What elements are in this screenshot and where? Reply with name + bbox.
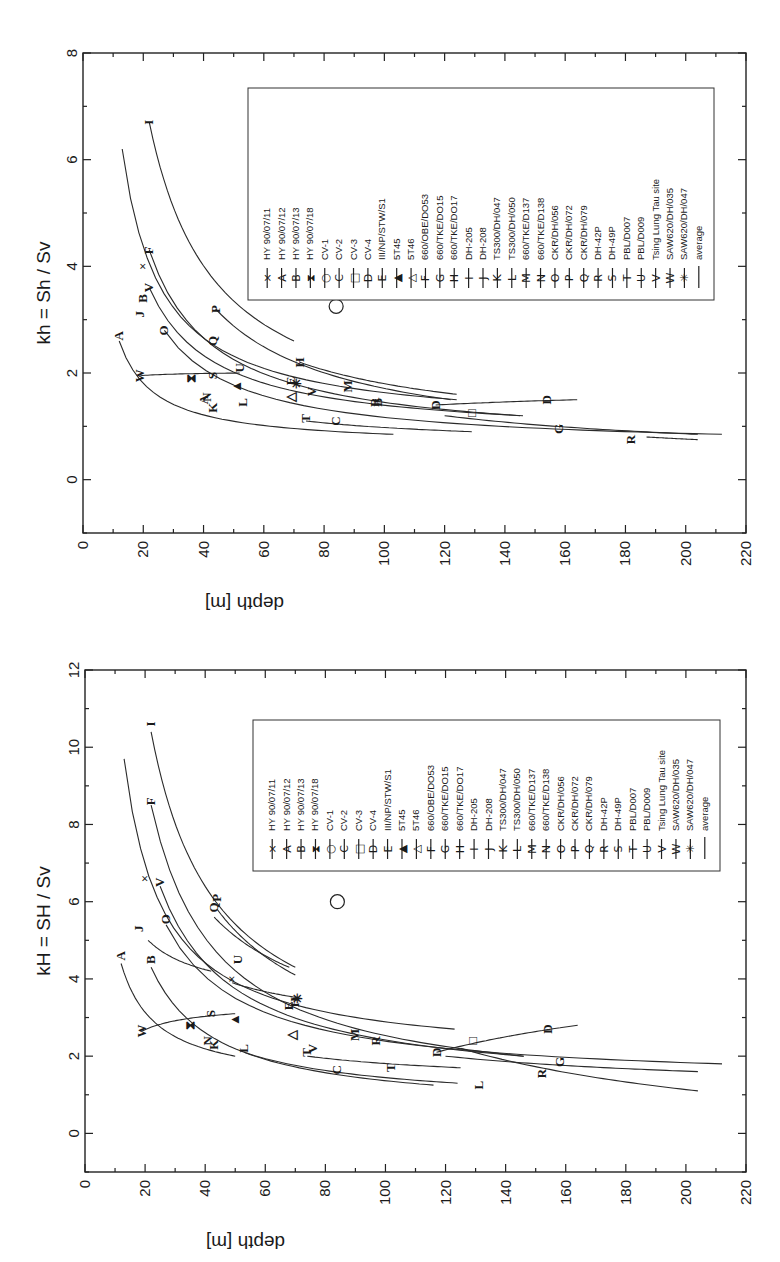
legend-label: 660/TKE/DO17 (448, 196, 459, 260)
legend-symbol: V (650, 274, 663, 282)
bottom-legend: ×HY 90/07/11AHY 90/07/12BHY 90/07/13⧗HY … (253, 720, 720, 871)
data-marker: G (551, 424, 566, 434)
legend-symbol: E (376, 274, 389, 281)
legend-label: PBL/D007 (621, 217, 632, 260)
legend-label: 660/TKE/D138 (535, 198, 546, 260)
data-marker: J (131, 925, 146, 932)
legend-symbol: Q (578, 273, 591, 282)
data-marker: U (230, 954, 245, 964)
data-marker: U (232, 362, 247, 372)
legend-symbol: W (670, 843, 683, 854)
legend-symbol: N (535, 274, 548, 282)
data-marker: × (137, 875, 152, 882)
legend-symbol: R (592, 274, 605, 282)
legend-label: Tsing Lung Tau site (650, 179, 661, 260)
legend-symbol: P (569, 845, 582, 852)
legend-symbol: F (425, 846, 438, 852)
legend-label: TS300/DH/050 (506, 197, 517, 260)
x-tick-label: 0 (76, 1180, 93, 1188)
legend-symbol: B (295, 845, 308, 853)
legend-label: DH-208 (483, 798, 494, 831)
legend-symbol: C (333, 274, 346, 282)
legend-label: HY 90/07/11 (261, 208, 272, 260)
legend-label: PBL/D009 (635, 217, 646, 260)
legend-label: HY 90/07/18 (304, 207, 315, 260)
y-tick-label: 4 (65, 975, 82, 983)
x-tick-label: 180 (617, 1180, 634, 1205)
legend-label: CV-2 (333, 239, 344, 260)
legend-label: DH-49P (606, 226, 617, 260)
legend-label: CV-4 (367, 810, 378, 831)
legend-symbol: ○ (319, 273, 332, 283)
legend-symbol: ▲ (391, 273, 404, 282)
legend-label: DH-42P (592, 226, 603, 260)
legend-label: CKR/DH/079 (578, 205, 589, 260)
legend-symbol: ✳ (678, 273, 691, 282)
data-marker: P (208, 305, 223, 313)
data-marker: N (199, 392, 214, 402)
data-marker-circle (330, 895, 344, 909)
legend-symbol: O (555, 844, 568, 853)
legend-symbol: ⧗ (304, 274, 317, 282)
top-x-axis-title: depth [m] (205, 593, 284, 614)
data-marker: C (329, 1065, 344, 1074)
legend-label: 660/OBE/DO53 (425, 765, 436, 831)
legend-label: HY 90/07/18 (309, 778, 320, 831)
legend-symbol: I (463, 276, 476, 279)
legend-symbol: M (526, 844, 539, 854)
data-marker: A (111, 330, 126, 340)
data-marker: R (367, 397, 382, 407)
data-marker: I (143, 722, 158, 727)
data-marker: B (143, 955, 158, 964)
top-chart-canvas: 02040608010012014016018020022002468kh = … (0, 0, 780, 630)
legend-symbol: M (520, 273, 533, 283)
x-tick-label: 140 (497, 1180, 514, 1205)
trend-curve (164, 330, 722, 434)
legend-label: CKR/DH/072 (563, 205, 574, 260)
trend-curve (436, 400, 578, 405)
legend-label: SAW620/DH/035 (664, 188, 675, 260)
legend-label: DH-205 (463, 227, 474, 260)
data-marker: △ (283, 391, 298, 403)
data-marker: D (540, 1024, 555, 1033)
x-tick-label: 60 (255, 541, 272, 558)
legend-label: 5T45 (391, 238, 402, 260)
legend-symbol: A (276, 274, 289, 282)
data-marker: V (304, 386, 319, 396)
legend-symbol: G (434, 274, 447, 283)
x-tick-label: 100 (376, 1180, 393, 1205)
bottom-chart: 020406080100120140160180200220024681012k… (0, 630, 780, 1262)
legend-label: CV-1 (324, 810, 335, 831)
legend-symbol: K (491, 274, 504, 282)
legend-symbol: △ (405, 273, 418, 282)
x-tick-label: 40 (196, 1180, 213, 1197)
legend-symbol: J (483, 847, 496, 851)
legend-symbol: T (621, 274, 634, 282)
data-marker: F (143, 797, 158, 805)
data-marker: J (132, 311, 147, 318)
x-tick-label: 20 (134, 541, 151, 558)
legend-label: CV-4 (362, 239, 373, 260)
bottom-y-axis-title: kH = SH / Sv (33, 866, 54, 976)
data-marker: ▲ (227, 1013, 242, 1026)
trend-curve (216, 309, 451, 400)
data-marker: M (347, 1029, 362, 1041)
data-marker: D (428, 400, 443, 409)
legend-symbol: R (598, 845, 611, 853)
y-tick-label: 0 (65, 1129, 82, 1137)
legend-symbol: △ (410, 844, 423, 853)
legend-symbol: ▲ (396, 844, 409, 853)
top-legend: ×HY 90/07/11AHY 90/07/12BHY 90/07/13⧗HY … (248, 88, 714, 300)
legend-label: average (699, 797, 710, 831)
data-marker: ✳ (290, 993, 305, 1004)
legend-label: 660/TKE/DO15 (434, 196, 445, 260)
data-marker: G (552, 1057, 567, 1067)
legend-label: PBL/D009 (641, 788, 652, 831)
data-marker: W (134, 1025, 149, 1038)
legend-label: SAW620/DH/047 (678, 188, 689, 260)
legend-label: CV-3 (353, 810, 364, 831)
legend-label: DH-49P (612, 797, 623, 831)
legend-symbol: ○ (324, 844, 337, 854)
x-tick-label: 160 (556, 541, 573, 566)
legend-symbol: P (563, 274, 576, 281)
